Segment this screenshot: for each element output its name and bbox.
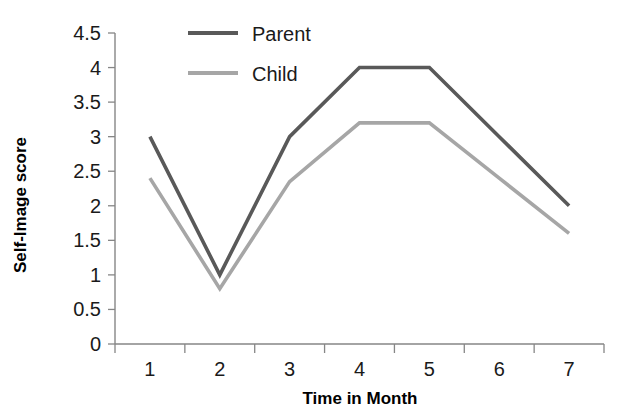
x-axis-tick-label: 3 <box>284 358 295 380</box>
y-axis-tick-label: 3.5 <box>73 91 101 113</box>
y-axis-tick-label: 0.5 <box>73 298 101 320</box>
y-axis-tick-label: 1 <box>90 264 101 286</box>
x-axis-tick-label: 7 <box>564 358 575 380</box>
legend-label-child: Child <box>252 63 298 85</box>
line-chart: 00.511.522.533.544.5 1234567 ParentChild… <box>0 0 629 420</box>
chart-canvas: 00.511.522.533.544.5 1234567 ParentChild… <box>0 0 629 420</box>
legend-label-parent: Parent <box>252 23 311 45</box>
x-axis-tick-label: 6 <box>494 358 505 380</box>
x-axis-tick-label: 5 <box>424 358 435 380</box>
y-axis-tick-label: 1.5 <box>73 229 101 251</box>
y-axis-tick-label: 3 <box>90 126 101 148</box>
x-axis-tick-label: 2 <box>214 358 225 380</box>
x-axis-tick-label: 4 <box>354 358 365 380</box>
y-axis-tick-label: 0 <box>90 333 101 355</box>
y-axis-tick-label: 2 <box>90 195 101 217</box>
x-axis-title: Time in Month <box>303 389 418 408</box>
x-axis-tick-label: 1 <box>144 358 155 380</box>
y-axis-title: Self-Image score <box>11 137 30 273</box>
y-axis-tick-label: 4.5 <box>73 22 101 44</box>
y-axis-tick-label: 2.5 <box>73 160 101 182</box>
y-axis-tick-label: 4 <box>90 57 101 79</box>
